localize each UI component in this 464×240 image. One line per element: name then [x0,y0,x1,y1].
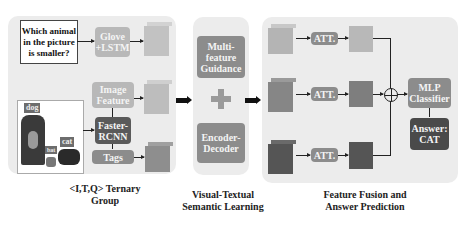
answer-box: Answer: CAT [410,118,449,150]
multi-feature-guidance-box: Multi-feature Guidance [197,36,245,78]
cat-figure [58,149,80,165]
arrow-att1-to-square1 [338,38,348,39]
encoder-decoder-box: Encoder-Decoder [197,123,245,163]
att-box-3: ATT. [311,148,338,162]
bat-label: bat [45,146,57,154]
att-box-2: ATT. [311,87,338,101]
image-feature-cube [144,80,172,114]
tags-cube [145,142,173,172]
connector-1-v [390,38,391,88]
connector-2 [373,94,383,95]
input-image: dog cat bat [17,100,84,174]
arrow-sum-to-mlp [397,94,407,95]
cat-label: cat [60,137,74,147]
bat-figure [46,157,56,167]
arrow-cube1-to-att1 [296,38,310,39]
section1-caption: <I,T,Q> Ternary Group [50,183,160,207]
fusion-sum-icon [384,88,398,102]
arrow-rcnn-to-imgfeat [112,108,113,117]
arrow-rcnn-to-tags [112,144,113,149]
arrow-att2-to-square2 [338,94,348,95]
arrow-imgfeat-to-cube [134,98,143,99]
text-feature-cube [144,22,172,56]
dog-label: dog [24,103,40,113]
attended-feature-3 [349,142,373,169]
fused-cube-1 [268,24,296,54]
image-feature-box: Image Feature [92,82,134,108]
question-text: Which animal in the picture is smaller? [21,26,77,59]
arrow-cube2-to-att2 [296,94,310,95]
arrow-image-to-rcnn [83,130,94,131]
attended-feature-2 [349,81,373,107]
fused-cube-3 [268,140,296,174]
section3-caption: Feature Fusion and Answer Prediction [300,189,430,213]
tags-box: Tags [92,150,134,164]
arrow-glove-to-cube [130,41,143,42]
question-box: Which animal in the picture is smaller? [20,20,78,64]
plus-icon [211,89,231,109]
attended-feature-1 [349,26,373,52]
fused-cube-2 [268,78,296,112]
glove-lstm-box: Glove +LSTM [95,27,130,57]
arrow-question-to-glove [77,41,94,42]
connector-3-v [390,101,391,156]
connector-1-h [373,38,390,39]
dog-chest [28,131,38,149]
section2-caption: Visual-Textual Semantic Learning [168,189,278,213]
arrow-cube3-to-att3 [296,155,310,156]
flow-arrow-1 [176,98,188,103]
arrow-mlp-to-answer [429,108,430,117]
faster-rcnn-box: Faster-RCNN [95,117,131,144]
att-box-1: ATT. [311,32,338,45]
arrow-tags-to-cube [134,157,144,158]
mlp-classifier-box: MLP Classifier [408,78,451,108]
flow-arrow-2 [245,98,257,103]
connector-3-h [373,155,390,156]
arrow-att3-to-square3 [338,155,348,156]
